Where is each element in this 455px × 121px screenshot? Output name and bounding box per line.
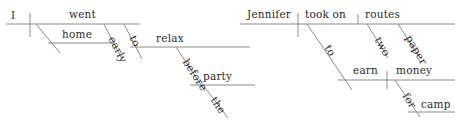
- left-home-stem: [36, 24, 60, 53]
- label-left-subject: I: [11, 10, 15, 21]
- label-left-adverb-place: home: [62, 29, 92, 40]
- label-right-direct-object: routes: [365, 9, 400, 20]
- label-right-subject: Jennifer: [247, 9, 291, 20]
- sentence-diagram-canvas: I went home early to relax before party …: [0, 0, 455, 121]
- label-right-prep-object: camp: [421, 99, 451, 110]
- label-left-prep-object: party: [203, 71, 232, 82]
- label-left-infinitive-verb: relax: [156, 33, 184, 44]
- label-right-infinitive-verb: earn: [353, 65, 378, 76]
- label-right-verb: took on: [305, 9, 346, 20]
- label-left-verb: went: [69, 9, 96, 20]
- label-right-infinitive-object: money: [396, 65, 432, 76]
